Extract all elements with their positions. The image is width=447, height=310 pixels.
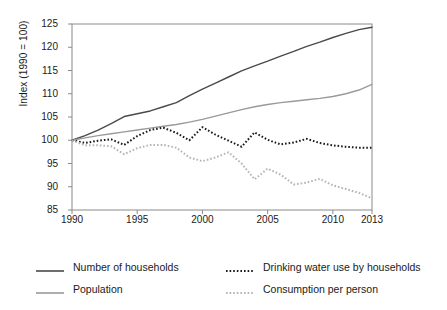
legend-item[interactable]: Drinking water use by households <box>226 261 441 273</box>
legend-item[interactable]: Population <box>36 283 226 295</box>
legend-label: Number of households <box>73 261 179 273</box>
chart-container: Index (1990 = 100) 859095100105110115120… <box>0 0 447 310</box>
series-lines <box>72 27 372 198</box>
series-line-2 <box>72 127 372 147</box>
x-tick-label: 2005 <box>248 214 288 225</box>
x-tick-label: 1995 <box>117 214 157 225</box>
x-axis-tick-labels: 199019952000200520102013 <box>0 214 447 232</box>
series-line-0 <box>72 27 372 140</box>
chart-legend: Number of householdsDrinking water use b… <box>36 256 441 300</box>
legend-item[interactable]: Consumption per person <box>226 283 441 295</box>
x-tick-label: 2010 <box>313 214 353 225</box>
legend-label: Consumption per person <box>263 283 378 295</box>
series-line-3 <box>72 140 372 198</box>
legend-swatch-icon <box>36 284 64 294</box>
x-tick-label: 2000 <box>182 214 222 225</box>
legend-swatch-icon <box>36 262 64 272</box>
series-line-1 <box>72 84 372 140</box>
x-tick-label: 1990 <box>52 214 92 225</box>
legend-label: Population <box>73 283 123 295</box>
x-tick-label: 2013 <box>352 214 392 225</box>
legend-swatch-icon <box>226 262 254 272</box>
legend-label: Drinking water use by households <box>263 261 421 273</box>
legend-item[interactable]: Number of households <box>36 261 226 273</box>
axes <box>68 24 372 214</box>
legend-swatch-icon <box>226 284 254 294</box>
